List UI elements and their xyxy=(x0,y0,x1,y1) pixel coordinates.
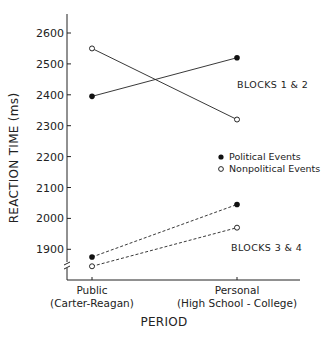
open-data-point xyxy=(235,225,240,230)
y-axis: 19002000210022002300240025002600 xyxy=(36,14,71,280)
filled-data-point xyxy=(89,254,95,260)
open-circle-icon xyxy=(219,167,224,172)
legend-political-label: Political Events xyxy=(229,151,301,162)
open-data-point xyxy=(235,117,240,122)
open-data-point xyxy=(90,264,95,269)
series-lines xyxy=(92,48,237,266)
legend-nonpolitical-label: Nonpolitical Events xyxy=(229,163,320,174)
annotation-blocks-1-2: BLOCKS 1 & 2 xyxy=(237,79,308,90)
x-category-label: (Carter-Reagan) xyxy=(50,297,134,309)
x-category-label: Public xyxy=(76,284,107,296)
y-tick-label: 2300 xyxy=(36,120,64,133)
x-category-label: Personal xyxy=(215,284,260,296)
filled-data-point xyxy=(234,55,240,61)
filled-data-point xyxy=(89,94,95,100)
legend: Political Events Nonpolitical Events xyxy=(218,151,320,174)
filled-circle-icon xyxy=(218,154,223,159)
annotation-blocks-3-4: BLOCKS 3 & 4 xyxy=(231,242,302,253)
x-axis-title: PERIOD xyxy=(140,315,187,329)
y-tick-label: 2600 xyxy=(36,27,64,40)
y-tick-label: 2100 xyxy=(36,182,64,195)
x-axis: Public(Carter-Reagan)Personal(High Schoo… xyxy=(50,277,300,309)
y-tick-label: 1900 xyxy=(36,243,64,256)
data-points xyxy=(89,46,240,269)
open-data-point xyxy=(90,46,95,51)
y-tick-label: 2200 xyxy=(36,151,64,164)
filled-data-point xyxy=(234,202,240,208)
x-category-label: (High School - College) xyxy=(177,297,297,309)
y-tick-label: 2400 xyxy=(36,89,64,102)
y-axis-title: REACTION TIME (ms) xyxy=(7,93,21,224)
y-tick-label: 2500 xyxy=(36,58,64,71)
y-tick-label: 2000 xyxy=(36,212,64,225)
reaction-time-chart: 19002000210022002300240025002600 Public(… xyxy=(0,0,325,341)
